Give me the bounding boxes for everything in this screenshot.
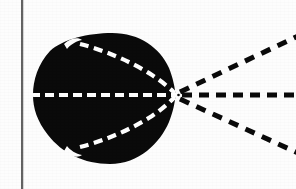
figure-container	[0, 0, 296, 189]
figure-canvas	[0, 0, 296, 189]
vertical-rule	[22, 0, 23, 189]
